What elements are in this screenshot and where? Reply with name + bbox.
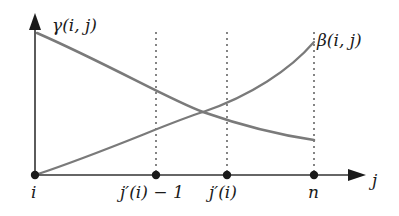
- dot-jprime-minus-1: [152, 171, 160, 179]
- tick-label-jprime-minus-1: j′(i) − 1: [120, 184, 184, 201]
- gamma-label: γ(i, j): [52, 17, 97, 34]
- x-axis-arrow-icon: [348, 169, 366, 181]
- gamma-curve: [37, 33, 314, 140]
- y-axis-arrow-icon: [29, 13, 41, 30]
- beta-curve: [35, 42, 314, 175]
- dot-i: [31, 171, 39, 179]
- tick-label-i: i: [31, 184, 36, 201]
- tick-label-n: n: [308, 184, 319, 201]
- x-axis-label: j: [372, 172, 377, 189]
- beta-label: β(i, j): [317, 32, 362, 49]
- dot-jprime: [223, 171, 231, 179]
- dot-n: [310, 171, 318, 179]
- tick-label-jprime: j′(i): [209, 184, 237, 201]
